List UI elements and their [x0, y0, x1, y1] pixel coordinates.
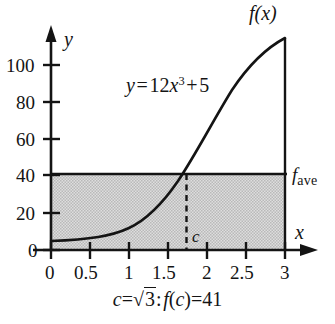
sqrt-radicand: 3 [144, 287, 156, 310]
figure-caption: c=√3: f(c)=41 [0, 288, 335, 311]
y-tick-label-40: 40 [16, 166, 35, 185]
caption-result: 41 [202, 288, 222, 310]
y-tick-label-100: 100 [6, 56, 35, 75]
caption-c: c [113, 288, 122, 310]
sqrt-symbol: √3 [133, 288, 156, 311]
average-label-sub: ave [297, 173, 317, 188]
x-axis-label: x [295, 222, 304, 242]
equation-coefficient: 12 [150, 74, 170, 96]
caption-colon: : [156, 288, 162, 310]
equation-constant: 5 [199, 74, 209, 96]
caption-paren-close: ) [184, 288, 191, 310]
y-axis-arrow [46, 25, 57, 42]
caption-c-arg: c [175, 288, 184, 310]
x-tick-label-3: 3 [280, 263, 290, 282]
y-tick-label-20: 20 [16, 204, 35, 223]
x-tick-label-2.5: 2.5 [230, 263, 254, 282]
equation-equals: = [135, 74, 150, 96]
x-tick-label-0.5: 0.5 [74, 263, 98, 282]
equation-lhs: y [126, 74, 135, 96]
y-tick-label-0: 0 [28, 241, 38, 260]
function-label: f(x) [249, 3, 277, 23]
equation-label: y = 12x3 + 5 [126, 75, 209, 95]
x-tick-label-2: 2 [202, 263, 212, 282]
x-axis-arrow [300, 244, 318, 256]
x-tick-label-1: 1 [124, 263, 134, 282]
caption-equals2: = [191, 288, 202, 310]
y-tick-label-80: 80 [16, 93, 35, 112]
y-tick-label-60: 60 [16, 130, 35, 149]
average-value-label: fave [292, 165, 317, 188]
x-tick-label-0: 0 [45, 263, 55, 282]
x-tick-label-1.5: 1.5 [152, 263, 176, 282]
c-marker-label: c [192, 228, 200, 245]
caption-equals: = [122, 288, 133, 310]
y-axis-label: y [64, 29, 73, 49]
equation-plus: + [185, 74, 200, 96]
average-value-figure: 100 80 60 40 20 0 0 0.5 1 1.5 2 2.5 3 y … [0, 0, 335, 324]
